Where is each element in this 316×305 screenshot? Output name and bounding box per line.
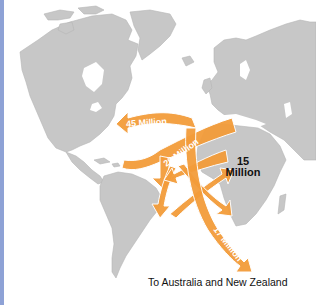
south-america — [100, 172, 162, 278]
africa-migration-label: 15 Million — [218, 156, 268, 178]
flow-label-17-million: 17 Million — [211, 225, 244, 263]
madagascar — [278, 194, 286, 214]
world-map: 45 Million 20 Million 17 Million — [0, 0, 316, 305]
north-america — [20, 14, 138, 152]
australia-caption: To Australia and New Zealand — [148, 276, 288, 288]
africa-migration-unit: Million — [218, 167, 268, 178]
greenland — [130, 10, 176, 60]
caribbean-islands — [94, 158, 120, 167]
flow-label-45-million: 45 Million — [126, 116, 168, 129]
iceland — [182, 56, 194, 66]
central-america — [66, 152, 104, 184]
